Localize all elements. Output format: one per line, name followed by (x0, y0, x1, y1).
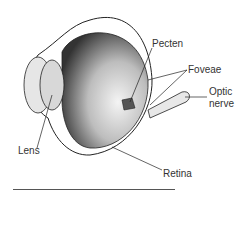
horizontal-rule (13, 189, 175, 190)
vitreous-chamber (62, 33, 148, 148)
label-lens: Lens (18, 145, 40, 156)
lens-shape (40, 60, 64, 110)
label-foveae: Foveae (188, 64, 221, 75)
label-retina: Retina (163, 168, 192, 179)
label-optic-nerve-line2: nerve (209, 98, 234, 109)
label-pecten: Pecten (152, 38, 183, 49)
label-optic-nerve-line1: Optic (209, 86, 232, 97)
optic-nerve-shape (148, 92, 189, 118)
